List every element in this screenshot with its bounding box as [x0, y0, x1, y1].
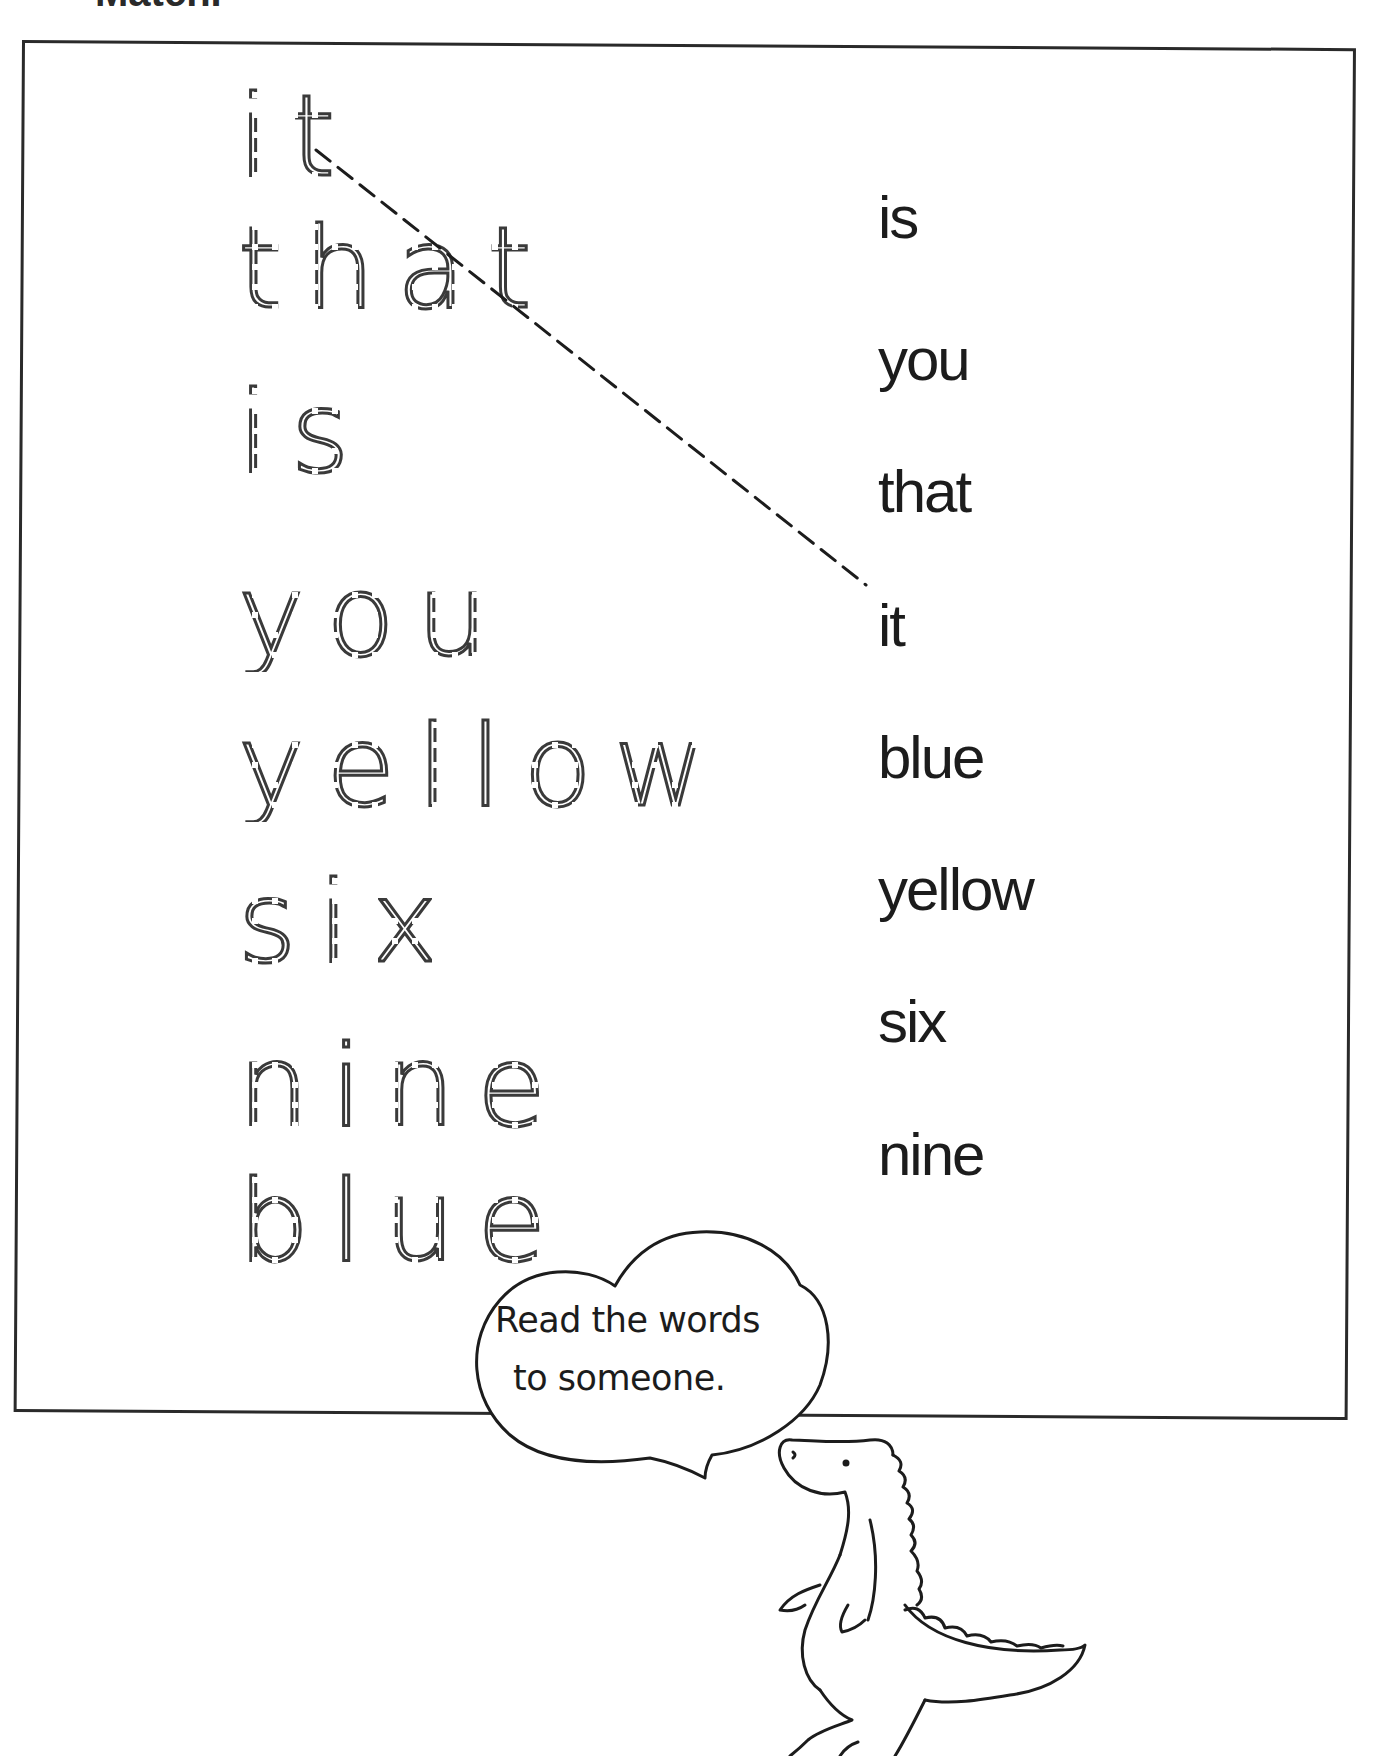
speech-bubble-text: Read the words to someone.: [495, 1292, 825, 1408]
drawing-layer: [0, 0, 1386, 1756]
crocodile-icon: [779, 1440, 1085, 1756]
speech-bubble-line-1: Read the words: [495, 1292, 825, 1350]
example-match-line: [316, 150, 866, 585]
speech-bubble-line-2: to someone.: [495, 1350, 825, 1408]
